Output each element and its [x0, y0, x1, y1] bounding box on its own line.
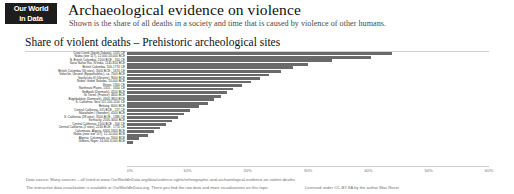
x-tick-label: 60% [485, 168, 493, 173]
x-tick-label: 50% [424, 168, 432, 173]
x-axis-line [127, 166, 489, 167]
data-source-note: Data source: Many sources – all listed a… [26, 177, 295, 182]
license-note: Licensed under CC-BY-SA by the author Ma… [305, 185, 399, 190]
owid-logo-line2: in Data [5, 14, 57, 24]
interactive-note: The interactive data visualization is av… [26, 185, 269, 190]
bar[interactable] [127, 141, 133, 144]
page-header: Our World in Data Archaeological evidenc… [0, 0, 514, 34]
x-tick-label: 10% [183, 168, 191, 173]
owid-logo-line1: Our World [5, 4, 57, 14]
bar-rows: Crow Creek (South Dakota), 1325 CENubia … [0, 52, 514, 144]
page-subtitle: Shown is the share of all deaths in a so… [69, 19, 386, 28]
owid-logo[interactable]: Our World in Data [5, 3, 57, 24]
x-tick-label: 40% [364, 168, 372, 173]
plot-area: Crow Creek (South Dakota), 1325 CENubia … [0, 52, 514, 164]
page-title: Archaeological evidence on violence [68, 1, 301, 19]
chart-page: Our World in Data Archaeological evidenc… [0, 0, 514, 194]
bar-row[interactable]: Gobero, Niger, 14,000-6,000 BCE [0, 141, 514, 145]
x-tick-label: 30% [304, 168, 312, 173]
chart-title: Share of violent deaths – Prehistoric ar… [25, 36, 280, 48]
bar-label: Gobero, Niger, 14,000-6,000 BCE [0, 139, 125, 143]
x-tick-label: 20% [243, 168, 251, 173]
x-tick-label: 0% [127, 168, 133, 173]
